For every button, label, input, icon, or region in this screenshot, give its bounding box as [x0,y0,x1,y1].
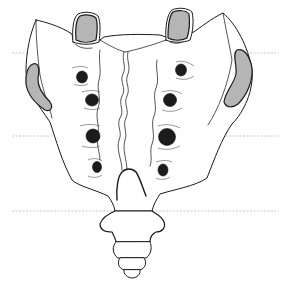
foramen-left-1 [77,71,88,83]
coccyx-segment-3 [118,258,145,270]
foramen-right-2 [164,94,177,107]
superior-articular-process-left [73,12,100,44]
sacrum-illustration [0,0,287,287]
coccyx [100,211,165,278]
superior-articular-process-right [166,8,193,42]
sacrum-drawing [0,0,287,287]
left-articular-facet [76,15,98,42]
foramen-left-4 [93,162,102,173]
foramen-left-2 [86,94,99,106]
coccyx-segment-1 [100,211,165,242]
foramen-left-3 [86,129,100,143]
foramen-right-3 [159,129,176,146]
coccyx-segment-4 [124,270,140,278]
coccyx-segment-2 [113,242,151,258]
foramen-right-4 [158,164,168,176]
right-articular-facet [168,11,189,41]
foramen-right-1 [176,64,187,76]
